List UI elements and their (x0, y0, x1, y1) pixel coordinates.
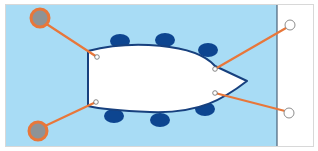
mooring-diagram (0, 0, 318, 151)
diagram-canvas (0, 0, 318, 151)
fender-starboard-2-icon (150, 113, 170, 127)
cleat-stern-port-icon (95, 55, 100, 60)
bollard-bottom-left-icon (29, 122, 47, 140)
cleat-bow-starboard-icon (213, 91, 218, 96)
cleat-bow-port-icon (213, 67, 218, 72)
bollard-top-left-icon (31, 9, 49, 27)
cleat-stern-starboard-icon (94, 100, 99, 105)
dock-ring-bottom-icon (284, 108, 294, 118)
dock-ring-top-icon (285, 20, 295, 30)
